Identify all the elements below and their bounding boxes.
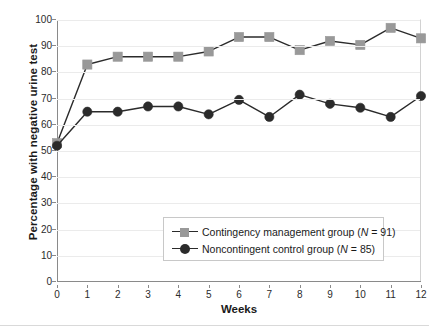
legend-label-contingency: Contingency management group (N = 91) xyxy=(198,226,396,238)
y-tick-label: 10 xyxy=(24,249,52,260)
x-tick-label: 9 xyxy=(318,289,342,300)
data-point-square xyxy=(113,52,122,61)
data-point-circle xyxy=(113,107,122,116)
x-tick-mark xyxy=(87,285,88,288)
x-tick-mark xyxy=(421,285,422,288)
data-point-circle xyxy=(356,103,365,112)
series-line xyxy=(57,28,421,143)
x-tick-label: 4 xyxy=(166,289,190,300)
y-tick-label: 60 xyxy=(24,118,52,129)
legend-item-noncontingent: Noncontingent control group (N = 85) xyxy=(172,240,383,257)
x-tick-label: 0 xyxy=(45,289,69,300)
data-point-circle xyxy=(143,102,152,111)
x-tick-mark xyxy=(391,285,392,288)
y-tick-mark xyxy=(52,71,56,72)
x-tick-mark xyxy=(209,285,210,288)
gridline xyxy=(57,99,420,100)
y-axis-tick-labels: 0102030405060708090100 xyxy=(22,19,52,281)
y-tick-mark xyxy=(52,98,56,99)
data-point-square xyxy=(386,23,395,32)
data-point-square xyxy=(356,40,365,49)
x-tick-mark xyxy=(148,285,149,288)
x-tick-label: 3 xyxy=(136,289,160,300)
y-tick-label: 40 xyxy=(24,171,52,182)
y-tick-mark xyxy=(52,176,56,177)
y-tick-mark xyxy=(52,19,56,20)
x-axis-line xyxy=(57,281,421,282)
gridline xyxy=(57,125,420,126)
y-tick-label: 50 xyxy=(24,145,52,156)
data-point-square xyxy=(234,32,243,41)
x-tick-label: 5 xyxy=(197,289,221,300)
y-tick-mark xyxy=(52,124,56,125)
y-tick-label: 30 xyxy=(24,197,52,208)
x-tick-mark xyxy=(239,285,240,288)
data-point-circle xyxy=(83,107,92,116)
data-point-circle xyxy=(265,112,274,121)
x-tick-label: 12 xyxy=(409,289,429,300)
data-point-square xyxy=(265,32,274,41)
data-point-square xyxy=(83,60,92,69)
y-tick-mark xyxy=(52,45,56,46)
y-tick-label: 20 xyxy=(24,223,52,234)
y-tick-label: 70 xyxy=(24,92,52,103)
gridline xyxy=(57,203,420,204)
x-tick-mark xyxy=(57,285,58,288)
circle-marker-icon xyxy=(172,243,198,255)
x-tick-mark xyxy=(269,285,270,288)
x-tick-label: 10 xyxy=(348,289,372,300)
x-tick-mark xyxy=(360,285,361,288)
x-tick-mark xyxy=(118,285,119,288)
chart-legend: Contingency management group (N = 91) No… xyxy=(163,217,384,261)
x-axis-title: Weeks xyxy=(57,303,421,315)
data-point-square xyxy=(325,36,334,45)
x-tick-label: 1 xyxy=(75,289,99,300)
data-point-circle xyxy=(325,99,334,108)
gridline xyxy=(57,20,420,21)
gridline xyxy=(57,72,420,73)
x-tick-label: 11 xyxy=(379,289,403,300)
data-point-square xyxy=(204,47,213,56)
data-point-square xyxy=(174,52,183,61)
x-tick-label: 7 xyxy=(257,289,281,300)
gridline xyxy=(57,46,420,47)
data-point-square xyxy=(143,52,152,61)
x-axis-tick-labels: 0123456789101112 xyxy=(57,285,421,299)
data-point-circle xyxy=(52,141,61,150)
x-tick-mark xyxy=(330,285,331,288)
gridline xyxy=(57,177,420,178)
gridline xyxy=(57,151,420,152)
y-tick-label: 100 xyxy=(24,14,52,25)
square-marker-icon xyxy=(172,226,198,238)
data-point-circle xyxy=(204,110,213,119)
data-point-circle xyxy=(174,102,183,111)
legend-label-noncontingent: Noncontingent control group (N = 85) xyxy=(198,243,375,255)
y-tick-mark xyxy=(52,255,56,256)
data-point-circle xyxy=(386,112,395,121)
x-tick-mark xyxy=(300,285,301,288)
data-point-circle xyxy=(234,95,243,104)
x-tick-label: 8 xyxy=(288,289,312,300)
x-tick-mark xyxy=(178,285,179,288)
data-point-square xyxy=(416,34,425,43)
x-tick-label: 2 xyxy=(106,289,130,300)
y-tick-mark xyxy=(52,281,56,282)
legend-item-contingency: Contingency management group (N = 91) xyxy=(172,223,383,240)
y-tick-mark xyxy=(52,202,56,203)
y-tick-label: 80 xyxy=(24,66,52,77)
y-tick-label: 0 xyxy=(24,276,52,287)
y-tick-mark xyxy=(52,229,56,230)
y-tick-label: 90 xyxy=(24,40,52,51)
x-tick-label: 6 xyxy=(227,289,251,300)
page-divider xyxy=(0,325,429,326)
chart-figure: Percentage with negative urine test 0102… xyxy=(0,0,429,330)
